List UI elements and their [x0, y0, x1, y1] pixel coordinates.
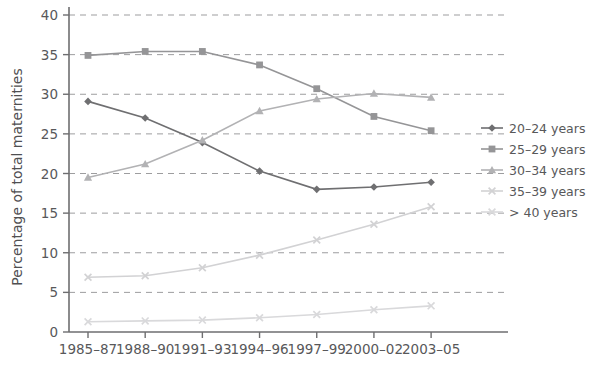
- y-tick-label: 30: [41, 86, 58, 102]
- series-4: [85, 203, 435, 280]
- legend-label: 20–24 years: [509, 121, 585, 136]
- y-tick-label: 20: [41, 166, 58, 182]
- y-axis: 0510152025303540: [41, 7, 69, 340]
- series-line: [88, 93, 431, 177]
- x-tick-label: 1997–99: [288, 341, 346, 357]
- x-tick-label: 1994–96: [230, 341, 288, 357]
- y-tick-label: 25: [41, 126, 58, 142]
- data-point: [371, 113, 378, 120]
- x-tick-label: 1988–90: [116, 341, 174, 357]
- series-line: [88, 306, 431, 322]
- y-tick-label: 40: [41, 7, 58, 23]
- data-point: [313, 186, 321, 194]
- data-point: [142, 48, 149, 55]
- legend-item-1[interactable]: 20–24 years: [481, 121, 585, 136]
- legend-item-4[interactable]: 35–39 years: [481, 184, 585, 199]
- data-point: [199, 48, 206, 55]
- x-tick-label: 2000–02: [345, 341, 403, 357]
- y-axis-title: Percentage of total maternities: [9, 68, 25, 286]
- y-tick-label: 15: [41, 205, 58, 221]
- series-line: [88, 207, 431, 278]
- data-point: [370, 183, 378, 191]
- x-tick-label: 2003–05: [402, 341, 460, 357]
- data-point: [256, 62, 263, 69]
- y-tick-label: 10: [41, 245, 58, 261]
- legend-label: 35–39 years: [509, 184, 585, 199]
- data-point: [313, 85, 320, 92]
- line-chart: 0510152025303540 1985–871988–901991–9319…: [0, 0, 608, 374]
- x-tick-label: 1991–93: [173, 341, 231, 357]
- x-axis: 1985–871988–901991–931994–961997–992000–…: [59, 332, 508, 357]
- series-2: [85, 48, 435, 134]
- y-tick-label: 0: [49, 324, 58, 340]
- legend: 20–24 years25–29 years30–34 years35–39 y…: [481, 121, 585, 220]
- plot-series: [84, 48, 435, 325]
- series-line: [88, 101, 431, 189]
- legend-item-2[interactable]: 25–29 years: [481, 142, 585, 157]
- data-point: [427, 178, 435, 186]
- legend-item-3[interactable]: 30–34 years: [481, 163, 585, 178]
- y-tick-label: 35: [41, 47, 58, 63]
- legend-label: > 40 years: [509, 205, 578, 220]
- y-axis-title-group: Percentage of total maternities: [9, 68, 25, 286]
- x-tick-label: 1985–87: [59, 341, 117, 357]
- data-point: [141, 114, 149, 122]
- data-point: [428, 127, 435, 134]
- data-point: [85, 52, 92, 59]
- legend-item-5[interactable]: > 40 years: [481, 205, 578, 220]
- y-tick-label: 5: [49, 284, 58, 300]
- series-3: [84, 89, 435, 180]
- legend-label: 30–34 years: [509, 163, 585, 178]
- data-point: [198, 136, 206, 143]
- chart-container: 0510152025303540 1985–871988–901991–9319…: [0, 0, 608, 374]
- data-point: [84, 98, 92, 106]
- series-5: [85, 302, 435, 325]
- gridlines: [69, 15, 508, 292]
- legend-label: 25–29 years: [509, 142, 585, 157]
